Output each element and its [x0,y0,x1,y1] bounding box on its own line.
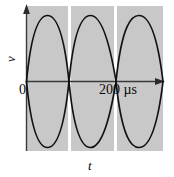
waveform-plot [0,0,174,177]
cycle-bands [26,6,163,151]
v-axis-label: v [4,56,17,62]
origin-label: 0 [19,83,26,97]
t-axis-label: t [88,159,92,172]
period-marker-label: 200 µs [99,83,137,97]
waveform-figure: v 0 200 µs t [0,0,174,177]
cycle-band-1 [26,6,68,151]
